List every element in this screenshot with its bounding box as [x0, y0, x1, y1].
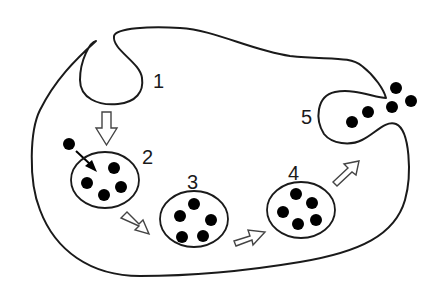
- stage-label-1: 1: [153, 70, 164, 92]
- stage-label-3: 3: [187, 171, 198, 193]
- flow-arrow-down-icon: [96, 112, 117, 145]
- flow-arrow-diagonal-up-icon: [333, 161, 359, 186]
- flow-arrow-right-icon: [234, 230, 265, 246]
- external-particle: [63, 138, 75, 150]
- stage-label-5: 5: [301, 106, 312, 128]
- vesicle-3: [160, 191, 228, 247]
- flow-arrow-diagonal-down-icon: [121, 212, 149, 234]
- stage-label-4: 4: [288, 162, 299, 184]
- vesicle-4: [267, 182, 335, 238]
- cell-membrane: [32, 27, 409, 276]
- stage-label-2: 2: [142, 146, 153, 168]
- endocytosis-diagram: 1 2 3 4 5: [0, 0, 441, 298]
- vesicle-2: [71, 152, 139, 208]
